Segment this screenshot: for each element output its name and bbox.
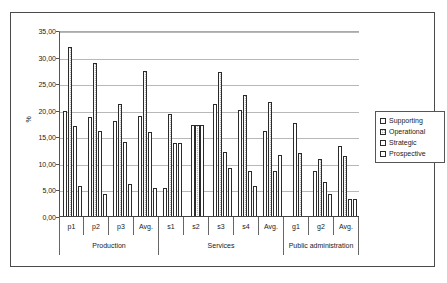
category-label: s4 xyxy=(234,217,259,235)
bar-operational-avg-8 xyxy=(268,102,272,217)
category-label: Avg. xyxy=(334,217,359,235)
bar-prospective-p1-0 xyxy=(78,186,82,217)
category-label: Avg. xyxy=(259,217,284,235)
bar-operational-p2-1 xyxy=(93,63,97,217)
bar-operational-s4-7 xyxy=(243,95,247,217)
bar-supporting-avg-11 xyxy=(338,146,342,217)
y-axis-tick-label: 25,00 xyxy=(12,81,56,88)
group-label-services: Services xyxy=(159,235,284,255)
category-label: Avg. xyxy=(134,217,159,235)
legend-item-label: Operational xyxy=(389,128,425,135)
y-axis-tick-label: 10,00 xyxy=(12,161,56,168)
chart-legend: SupportingOperationalStrategicProspectiv… xyxy=(375,111,445,163)
bar-prospective-g2-10 xyxy=(328,194,332,217)
bar-supporting-avg-3 xyxy=(138,116,142,218)
bar-prospective-avg-8 xyxy=(278,155,282,217)
legend-item-operational[interactable]: Operational xyxy=(380,126,441,137)
bar-prospective-avg-3 xyxy=(153,188,157,217)
category-label: p3 xyxy=(109,217,134,235)
y-axis-label: % xyxy=(25,116,32,122)
bar-operational-avg-11 xyxy=(343,156,347,217)
bar-operational-s2-5 xyxy=(195,125,199,217)
legend-item-prospective[interactable]: Prospective xyxy=(380,148,441,159)
bar-operational-p3-2 xyxy=(118,104,122,217)
bar-strategic-p2-1 xyxy=(98,131,102,217)
bar-prospective-p3-2 xyxy=(128,184,132,217)
y-axis-ticks: 0,005,0010,0015,0020,0025,0030,0035,00 xyxy=(11,31,56,217)
bar-supporting-p2-1 xyxy=(88,117,92,217)
y-axis-tick-label: 30,00 xyxy=(12,55,56,62)
bar-strategic-s3-6 xyxy=(223,152,227,217)
bar-supporting-s4-7 xyxy=(238,110,242,217)
legend-swatch-icon xyxy=(380,118,386,124)
group-label-public-administration: Public administration xyxy=(284,235,359,255)
bar-supporting-p3-2 xyxy=(113,121,117,217)
category-label: p2 xyxy=(84,217,109,235)
bar-supporting-avg-8 xyxy=(263,131,267,217)
bar-operational-g1-9 xyxy=(298,153,302,217)
category-label: s3 xyxy=(209,217,234,235)
y-axis-tick-label: 15,00 xyxy=(12,134,56,141)
bar-supporting-s1-4 xyxy=(163,188,167,217)
category-label: s1 xyxy=(159,217,184,235)
bar-strategic-s1-4 xyxy=(173,143,177,217)
y-axis-tick-label: 35,00 xyxy=(12,28,56,35)
category-label: g2 xyxy=(309,217,334,235)
bar-supporting-s2-5 xyxy=(191,125,195,217)
legend-item-supporting[interactable]: Supporting xyxy=(380,115,441,126)
bar-strategic-s4-7 xyxy=(248,171,252,217)
bar-strategic-s2-5 xyxy=(200,125,204,217)
plot-area xyxy=(59,31,359,217)
legend-item-strategic[interactable]: Strategic xyxy=(380,137,441,148)
bar-operational-p1-0 xyxy=(68,47,72,217)
chart-screenshot: 0,005,0010,0015,0020,0025,0030,0035,00 %… xyxy=(0,0,447,283)
bar-prospective-s1-4 xyxy=(178,143,182,217)
bar-prospective-p2-1 xyxy=(103,194,107,217)
bar-strategic-g2-10 xyxy=(323,182,327,217)
category-label: g1 xyxy=(284,217,309,235)
bar-strategic-avg-3 xyxy=(148,132,152,217)
bar-operational-s3-6 xyxy=(218,72,222,217)
y-axis-tick-label: 5,00 xyxy=(12,187,56,194)
bars-layer xyxy=(60,32,359,217)
bar-prospective-avg-11 xyxy=(353,199,357,217)
legend-item-label: Supporting xyxy=(389,117,423,124)
group-label-production: Production xyxy=(59,235,159,255)
category-axis: p1p2p3Avg.s1s2s3s4Avg.g1g2Avg.Production… xyxy=(59,217,359,257)
legend-item-label: Strategic xyxy=(389,139,417,146)
bar-supporting-g2-10 xyxy=(313,171,317,217)
bar-strategic-avg-8 xyxy=(273,171,277,217)
bar-prospective-s3-6 xyxy=(228,168,232,217)
bar-supporting-g1-9 xyxy=(293,123,297,217)
bar-strategic-p1-0 xyxy=(73,126,77,217)
legend-swatch-icon xyxy=(380,129,386,135)
y-axis-tick-label: 0,00 xyxy=(12,214,56,221)
chart-frame: 0,005,0010,0015,0020,0025,0030,0035,00 %… xyxy=(10,12,435,267)
legend-swatch-icon xyxy=(380,151,386,157)
bar-prospective-s4-7 xyxy=(253,186,257,217)
category-label: s2 xyxy=(184,217,209,235)
bar-strategic-p3-2 xyxy=(123,142,127,217)
bar-supporting-s3-6 xyxy=(213,104,217,217)
y-axis-tick-label: 20,00 xyxy=(12,108,56,115)
bar-supporting-p1-0 xyxy=(63,111,67,217)
category-label: p1 xyxy=(59,217,84,235)
bar-operational-s1-4 xyxy=(168,114,172,217)
legend-item-label: Prospective xyxy=(389,150,426,157)
legend-swatch-icon xyxy=(380,140,386,146)
bar-operational-avg-3 xyxy=(143,71,147,217)
bar-strategic-avg-11 xyxy=(348,199,352,217)
bar-operational-g2-10 xyxy=(318,159,322,217)
